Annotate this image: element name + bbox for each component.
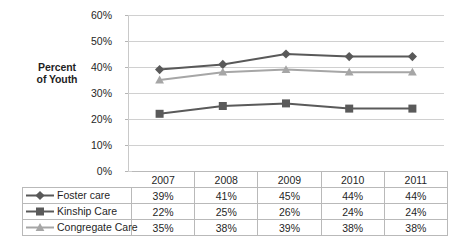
y-tick-label-40: 40%	[72, 61, 112, 73]
data-table: 20072008200920102011 Foster care39%41%45…	[22, 171, 448, 236]
table-header-row: 20072008200920102011	[23, 172, 448, 188]
legend-key-square-icon	[25, 205, 55, 218]
series-kinship-care	[156, 99, 417, 117]
table-column-header-2010: 2010	[321, 172, 384, 188]
table-column-header-2007: 2007	[132, 172, 195, 188]
table-cell: 39%	[258, 220, 321, 236]
table-cell: 35%	[132, 220, 195, 236]
y-tick-label-60: 60%	[72, 9, 112, 21]
table-cell: 39%	[132, 188, 195, 204]
legend-label: Congregate Care	[57, 221, 138, 234]
line-chart-figure: Percent of Youth 60%50%40%30%20%10%0% 20…	[0, 0, 456, 241]
table-cell: 44%	[321, 188, 384, 204]
y-axis-title-line-2: of Youth	[14, 73, 100, 85]
table-column-header-2011: 2011	[384, 172, 447, 188]
data-point-2011	[408, 105, 416, 113]
data-point-2011	[408, 52, 417, 61]
table-cell: 24%	[384, 204, 447, 220]
table-cell: 22%	[132, 204, 195, 220]
y-tick-label-50: 50%	[72, 35, 112, 47]
legend-marker	[36, 208, 44, 216]
legend-cell-kinship-care: Kinship Care	[23, 204, 132, 220]
data-point-2007	[155, 65, 164, 74]
table-cell: 45%	[258, 188, 321, 204]
table-body: Foster care39%41%45%44%44%Kinship Care22…	[23, 188, 448, 236]
table-cell: 26%	[258, 204, 321, 220]
y-tick-label-30: 30%	[72, 87, 112, 99]
table-cell: 41%	[195, 188, 258, 204]
table-cell: 25%	[195, 204, 258, 220]
legend-key-triangle-icon	[25, 221, 55, 234]
legend-cell-congregate-care: Congregate Care	[23, 220, 132, 236]
legend-marker	[35, 191, 44, 200]
legend-label: Kinship Care	[57, 205, 117, 218]
table-cell: 38%	[384, 220, 447, 236]
table-cell: 38%	[321, 220, 384, 236]
table-row: Kinship Care22%25%26%24%24%	[23, 204, 448, 220]
data-point-2008	[219, 102, 227, 110]
table-column-header-2008: 2008	[195, 172, 258, 188]
table-row: Congregate Care35%38%39%38%38%	[23, 220, 448, 236]
table-cell: 38%	[195, 220, 258, 236]
table-cell: 44%	[384, 188, 447, 204]
plot-area: 60%50%40%30%20%10%0%	[128, 15, 444, 171]
legend-label: Foster care	[57, 189, 110, 202]
legend-key-diamond-icon	[25, 189, 55, 202]
series-lines	[128, 15, 444, 171]
table-column-header-2009: 2009	[258, 172, 321, 188]
data-point-2010	[345, 105, 353, 113]
table-cell: 24%	[321, 204, 384, 220]
y-tick-label-20: 20%	[72, 113, 112, 125]
y-tick-label-10: 10%	[72, 139, 112, 151]
legend-cell-foster-care: Foster care	[23, 188, 132, 204]
data-point-2009	[282, 99, 290, 107]
data-point-2009	[281, 49, 290, 58]
table-row: Foster care39%41%45%44%44%	[23, 188, 448, 204]
table-corner-cell	[23, 172, 132, 188]
data-point-2007	[156, 110, 164, 118]
series-congregate-care	[155, 65, 417, 83]
data-point-2008	[218, 60, 227, 69]
data-point-2010	[345, 52, 354, 61]
